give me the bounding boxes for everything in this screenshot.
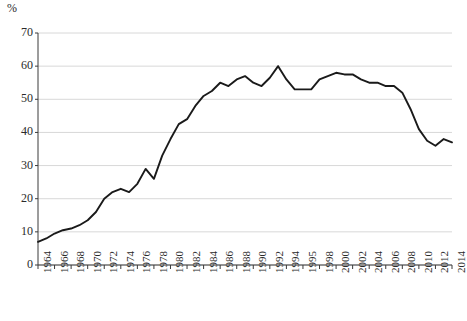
x-axis-tick-label: 1982 xyxy=(191,251,202,273)
x-axis-tick-label: 2014 xyxy=(456,251,467,273)
x-axis-tick-label: 2002 xyxy=(357,251,368,273)
x-axis-tick-label: 2008 xyxy=(406,251,417,273)
x-axis-tick-label: 1978 xyxy=(158,251,169,273)
x-axis-tick-label: 1995 xyxy=(307,251,318,273)
x-axis-tick-label: 1998 xyxy=(324,251,335,273)
x-axis-tick-label: 2006 xyxy=(390,251,401,273)
x-axis-tick-label: 1970 xyxy=(92,251,103,273)
x-axis-tick-label: 1968 xyxy=(75,251,86,273)
x-axis-tick-label: 2000 xyxy=(340,251,351,273)
x-axis-tick-label: 1964 xyxy=(42,251,53,273)
x-axis-tick-label: 1994 xyxy=(290,251,301,273)
x-axis-tick-label: 2010 xyxy=(423,251,434,273)
x-axis-tick-label: 1990 xyxy=(257,251,268,273)
x-axis-tick-label: 1976 xyxy=(141,251,152,273)
x-axis-tick-label: 1974 xyxy=(125,251,136,273)
x-axis-tick-label: 1980 xyxy=(174,251,185,273)
x-axis-tick-label: 1984 xyxy=(208,251,219,273)
x-axis-tick-label: 1992 xyxy=(274,251,285,273)
x-axis-tick-label: 2004 xyxy=(373,251,384,273)
x-axis-tick-label: 1986 xyxy=(224,251,235,273)
x-axis-tick-label: 1972 xyxy=(108,251,119,273)
x-axis-tick-label: 1966 xyxy=(59,251,70,273)
x-axis-tick-label: 1988 xyxy=(241,251,252,273)
x-axis-tick-label: 2012 xyxy=(439,251,450,273)
